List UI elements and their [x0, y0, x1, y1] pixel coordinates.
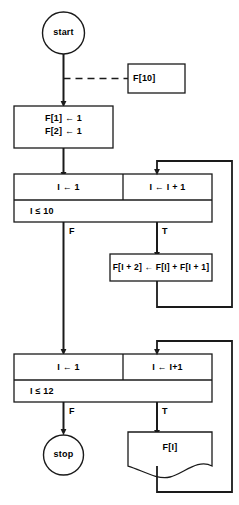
loop2-true-branch-label: T [162, 406, 168, 416]
body1-box-shape [110, 254, 212, 281]
output-document-shape [128, 432, 212, 478]
declaration-box-shape [128, 64, 185, 93]
loop1-box-shape [14, 174, 212, 222]
init-box-shape [14, 106, 113, 148]
loop1-false-branch-label: F [69, 226, 75, 236]
loop1-true-branch-label: T [162, 226, 168, 236]
flowchart-diagram: start F[10] F[1] ← 1 F[2] ← 1 I ← 1 I ← … [0, 0, 239, 505]
start-terminal-shape [43, 12, 85, 54]
loop2-false-branch-label: F [69, 406, 75, 416]
flowchart-canvas [0, 0, 239, 505]
loop2-box-shape [14, 354, 212, 402]
stop-terminal-shape [44, 435, 84, 475]
